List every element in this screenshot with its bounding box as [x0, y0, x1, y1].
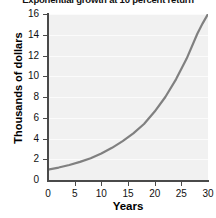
y-tick: [43, 35, 48, 36]
chart-figure: Exponential growth at 10 percent return …: [0, 0, 216, 218]
y-tick-label: 4: [11, 133, 39, 144]
x-tick: [75, 181, 76, 186]
data-series-curve: [48, 14, 208, 180]
x-axis-label: Years: [48, 200, 208, 212]
chart-title: Exponential growth at 10 percent return: [0, 0, 216, 5]
y-tick-label: 6: [11, 112, 39, 123]
plot-area: [48, 14, 208, 180]
x-tick: [155, 181, 156, 186]
y-tick-label: 8: [11, 91, 39, 102]
x-tick: [181, 181, 182, 186]
x-tick: [128, 181, 129, 186]
x-tick-label: 20: [142, 188, 168, 199]
y-tick-label: 2: [11, 153, 39, 164]
y-tick: [43, 76, 48, 77]
y-tick-label: 14: [11, 29, 39, 40]
y-tick-label: 10: [11, 70, 39, 81]
y-tick-label: 0: [11, 174, 39, 185]
y-tick: [43, 14, 48, 15]
y-tick: [43, 118, 48, 119]
x-tick-label: 30: [195, 188, 216, 199]
x-tick-label: 15: [115, 188, 141, 199]
x-tick-label: 25: [168, 188, 194, 199]
y-tick: [43, 159, 48, 160]
x-tick-label: 5: [62, 188, 88, 199]
y-tick-label: 16: [11, 8, 39, 19]
x-tick-label: 10: [88, 188, 114, 199]
y-tick: [43, 56, 48, 57]
x-tick: [101, 181, 102, 186]
x-tick-label: 0: [35, 188, 61, 199]
y-tick: [43, 97, 48, 98]
y-tick-label: 12: [11, 50, 39, 61]
y-tick: [43, 139, 48, 140]
